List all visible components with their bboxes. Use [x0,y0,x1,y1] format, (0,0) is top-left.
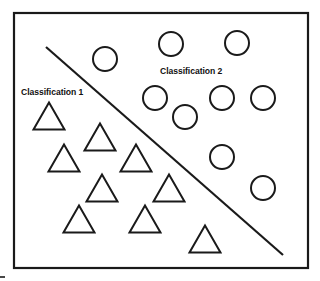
classification-diagram: Classification 1 Classification 2 [0,0,320,281]
diagram-canvas [0,0,320,281]
classification-2-label: Classification 2 [160,67,222,76]
classification-1-label: Classification 1 [21,88,83,97]
